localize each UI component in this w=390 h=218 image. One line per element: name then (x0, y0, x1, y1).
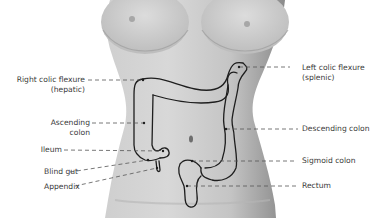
label-rectum: Rectum (302, 181, 331, 191)
label-sigmoid-colon: Sigmoid colon (302, 156, 356, 166)
navel (189, 136, 193, 143)
label-right-colic-flexure: Right colic flexure (hepatic) (17, 75, 85, 94)
label-blind-gut: Blind gut (44, 167, 78, 177)
label-ileum: Ileum (41, 145, 62, 155)
label-left-colic-flexure: Left colic flexure (splenic) (302, 63, 365, 82)
label-appendix: Appendix (44, 182, 80, 192)
anatomy-diagram: Right colic flexure (hepatic) Ascending … (0, 0, 390, 218)
label-ascending-colon: Ascending colon (51, 118, 90, 137)
label-descending-colon: Descending colon (302, 124, 370, 134)
